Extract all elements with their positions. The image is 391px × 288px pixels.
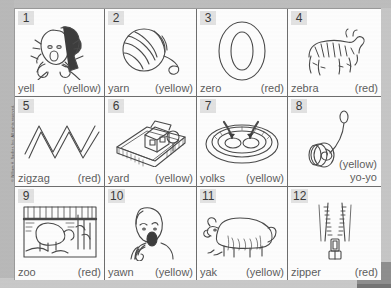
cell-label-row: zigzag(red) [15, 168, 104, 185]
vocabulary-word: yawn [108, 266, 134, 278]
vocabulary-word: zigzag [18, 172, 50, 184]
worksheet-cell-8[interactable]: 8 (yellow)yo-yo [288, 97, 381, 187]
cell-label-row: yarn(yellow) [105, 78, 196, 95]
worksheet-cell-6[interactable]: 6 yard(yellow) [105, 97, 197, 187]
color-instruction: (red) [355, 266, 378, 278]
color-instruction: (yellow) [246, 172, 284, 184]
house-yard-icon [105, 111, 196, 168]
vocabulary-word: yell [18, 82, 35, 94]
vocabulary-word: zebra [291, 82, 319, 94]
color-instruction: (yellow) [155, 82, 193, 94]
worksheet-grid: 1 yell(yellow)2 [14, 8, 381, 280]
worksheet-cell-10[interactable]: 10 yawn(yellow) [105, 187, 197, 280]
vocabulary-word: yard [108, 172, 129, 184]
cell-label-row: (yellow)yo-yo [288, 155, 381, 185]
page-background: © William H. Sadlier, Inc. All rights re… [0, 0, 391, 288]
vocabulary-word: zoo [18, 266, 36, 278]
vocabulary-word: yo-yo [350, 171, 377, 184]
cell-label-row: zoo(red) [15, 262, 104, 279]
cell-label-row: zebra(red) [288, 78, 381, 95]
worksheet-cell-11[interactable]: 11 yak(yellow) [197, 187, 288, 280]
corner-block-shadow [357, 284, 391, 288]
zebra-icon [288, 23, 381, 78]
zigzag-line-icon [15, 111, 104, 168]
color-instruction: (yellow) [246, 266, 284, 278]
worksheet-cell-12[interactable]: 12 zipper(red) [288, 187, 381, 280]
vocabulary-word: yarn [108, 82, 129, 94]
cell-label-row: zipper(red) [288, 262, 381, 279]
cell-label-row: zero(red) [197, 78, 287, 95]
vocabulary-word: zipper [291, 266, 321, 278]
color-instruction: (red) [355, 82, 378, 94]
cell-label-row: yolks(yellow) [197, 168, 287, 185]
boy-yawning-icon [105, 201, 196, 262]
zipper-icon [288, 201, 381, 262]
vocabulary-word: yolks [200, 172, 225, 184]
girl-yelling-icon [15, 23, 104, 78]
color-instruction: (yellow) [155, 266, 193, 278]
worksheet-cell-5[interactable]: 5 zigzag(red) [15, 97, 105, 187]
zoo-scene-icon [15, 201, 104, 262]
worksheet-cell-2[interactable]: 2 yarn(yellow) [105, 9, 197, 97]
cell-label-row: yell(yellow) [15, 78, 104, 95]
worksheet-cell-9[interactable]: 9 zoo(red) [15, 187, 105, 280]
vocabulary-word: zero [200, 82, 221, 94]
color-instruction: (red) [78, 172, 101, 184]
cell-label-row: yak(yellow) [197, 262, 287, 279]
page-top-margin [0, 0, 391, 8]
worksheet-cell-7[interactable]: 7 yolks(yellow) [197, 97, 288, 187]
worksheet-cell-1[interactable]: 1 yell(yellow) [15, 9, 105, 97]
egg-yolks-icon [197, 111, 287, 168]
color-instruction: (red) [261, 82, 284, 94]
yarn-ball-icon [105, 23, 196, 78]
cell-label-row: yawn(yellow) [105, 262, 196, 279]
color-instruction: (yellow) [155, 172, 193, 184]
color-instruction: (yellow) [339, 158, 377, 171]
zero-digit-icon [197, 23, 287, 78]
worksheet-cell-3[interactable]: 3 zero(red) [197, 9, 288, 97]
color-instruction: (yellow) [63, 82, 101, 94]
cell-label-row: yard(yellow) [105, 168, 196, 185]
worksheet-cell-4[interactable]: 4 zebra(red) [288, 9, 381, 97]
vocabulary-word: yak [200, 266, 217, 278]
yak-icon [197, 201, 287, 262]
color-instruction: (red) [78, 266, 101, 278]
